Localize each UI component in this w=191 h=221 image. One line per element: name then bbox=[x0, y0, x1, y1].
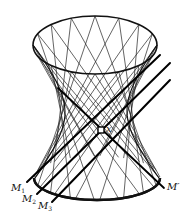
ruling-lines bbox=[33, 16, 160, 200]
label-x: x bbox=[106, 124, 112, 134]
ruling-line bbox=[34, 18, 119, 177]
point-x-marker bbox=[98, 127, 104, 133]
label-m2-sub: 2 bbox=[32, 198, 36, 205]
bottom-rim-hidden-4 bbox=[34, 178, 160, 200]
bottom-rim-front bbox=[34, 178, 160, 200]
label-m3-sub: 3 bbox=[48, 205, 52, 212]
label-m-prime-text: M′ bbox=[167, 181, 180, 192]
label-m-prime: M′ bbox=[167, 182, 180, 192]
ruling-line bbox=[119, 18, 144, 193]
label-m3: M3 bbox=[38, 201, 52, 212]
bottom-rim-hidden bbox=[34, 178, 160, 200]
bottom-rim-hidden-3 bbox=[34, 178, 160, 200]
ruling-line bbox=[71, 72, 160, 179]
bottom-rim-spacer bbox=[34, 178, 160, 200]
ruling-line bbox=[100, 34, 153, 200]
ruling-line bbox=[75, 45, 157, 199]
bottom-rim-hidden-2 bbox=[34, 178, 160, 200]
top-rim bbox=[33, 16, 157, 74]
label-x-text: x bbox=[106, 123, 112, 134]
label-m2: M2 bbox=[22, 194, 36, 205]
label-m3-base: M bbox=[38, 200, 48, 211]
bottom-rim-front-arc bbox=[34, 178, 160, 200]
hyperboloid-diagram bbox=[0, 0, 191, 221]
bottom-rim-back bbox=[34, 178, 160, 200]
bottom-rim-aux bbox=[34, 178, 160, 200]
label-m1-base: M bbox=[11, 182, 21, 193]
point-x-icon bbox=[98, 127, 104, 133]
label-m2-base: M bbox=[22, 193, 32, 204]
